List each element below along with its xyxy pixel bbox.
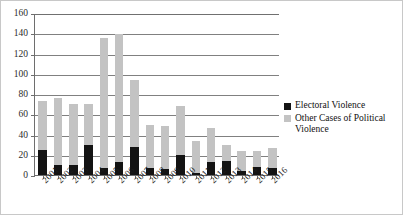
bar-segment-other-political-violence bbox=[176, 106, 185, 155]
chart-legend: Electoral Violence Other Cases of Politi… bbox=[284, 100, 396, 137]
bar-segment-other-political-violence bbox=[222, 145, 231, 161]
bar-series-group bbox=[35, 14, 279, 175]
bar-segment-other-political-violence bbox=[161, 126, 170, 169]
bar-column bbox=[130, 14, 139, 175]
bar-segment-other-political-violence bbox=[69, 104, 78, 165]
bar-segment-other-political-violence bbox=[146, 125, 155, 168]
bar-column bbox=[69, 14, 78, 175]
bar-segment-other-political-violence bbox=[207, 128, 216, 161]
legend-item-electoral-violence: Electoral Violence bbox=[284, 100, 396, 112]
y-axis-tick-label: 0 bbox=[2, 171, 28, 181]
y-axis-tick-label: 20 bbox=[2, 151, 28, 161]
y-axis-tick-label: 160 bbox=[2, 9, 28, 19]
plot-area bbox=[34, 14, 279, 176]
bar-column bbox=[222, 14, 231, 175]
bar-column bbox=[268, 14, 277, 175]
bar-column bbox=[100, 14, 109, 175]
bar-column bbox=[54, 14, 63, 175]
bar-column bbox=[115, 14, 124, 175]
y-axis-tick-label: 80 bbox=[2, 90, 28, 100]
bar-column bbox=[176, 14, 185, 175]
bar-column bbox=[84, 14, 93, 175]
bar-column bbox=[161, 14, 170, 175]
bar-segment-other-political-violence bbox=[130, 80, 139, 147]
bar-column bbox=[146, 14, 155, 175]
bar-column bbox=[207, 14, 216, 175]
legend-item-other-political-violence: Other Cases of Political Violence bbox=[284, 113, 396, 136]
bar-segment-other-political-violence bbox=[38, 101, 47, 150]
bar-column bbox=[237, 14, 246, 175]
y-axis-tick-label: 40 bbox=[2, 131, 28, 141]
bar-segment-other-political-violence bbox=[268, 148, 277, 168]
bar-segment-other-political-violence bbox=[100, 38, 109, 168]
bar-segment-other-political-violence bbox=[84, 104, 93, 145]
legend-swatch-icon bbox=[284, 115, 291, 122]
legend-swatch-icon bbox=[284, 103, 291, 110]
bar-column bbox=[192, 14, 201, 175]
y-axis-tick-label: 100 bbox=[2, 70, 28, 80]
bar-column bbox=[38, 14, 47, 175]
bar-segment-other-political-violence bbox=[115, 34, 124, 162]
x-axis-labels: 2001200220032004200520062007200820092010… bbox=[34, 176, 279, 215]
y-axis-tick-label: 140 bbox=[2, 29, 28, 39]
bar-segment-other-political-violence bbox=[253, 151, 262, 167]
y-axis-tick-label: 120 bbox=[2, 50, 28, 60]
bar-segment-other-political-violence bbox=[54, 98, 63, 165]
legend-label: Other Cases of Political Violence bbox=[295, 113, 396, 136]
y-axis-tick-label: 60 bbox=[2, 110, 28, 120]
legend-label: Electoral Violence bbox=[295, 100, 396, 112]
chart-figure: 020406080100120140160 200120022003200420… bbox=[0, 0, 403, 215]
bar-column bbox=[253, 14, 262, 175]
